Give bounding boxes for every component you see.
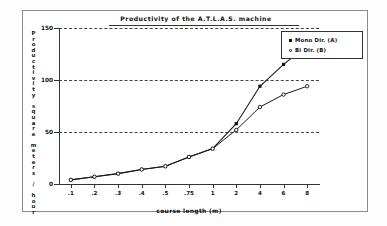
x-tick-label-.75: .75 bbox=[184, 190, 194, 196]
open-circle-icon bbox=[286, 47, 295, 53]
y-tick-label-0: 0 bbox=[49, 181, 53, 187]
x-tick-8 bbox=[307, 184, 308, 188]
x-tick-.4 bbox=[142, 184, 143, 188]
series-line-bi-dir bbox=[71, 86, 307, 180]
series-line-mono-dir bbox=[71, 46, 307, 180]
data-point bbox=[164, 165, 167, 168]
x-tick-label-.4: .4 bbox=[139, 190, 145, 196]
x-tick-1 bbox=[213, 184, 214, 188]
chart-title: Productivity of the A.T.L.A.S. machine bbox=[23, 15, 369, 22]
legend-label-mono-dir: Mono Dir. (A) bbox=[295, 37, 337, 43]
data-point bbox=[211, 147, 214, 150]
x-tick-label-.5: .5 bbox=[162, 190, 168, 196]
chart-legend: Mono Dir. (A) Bi Dir. (B) bbox=[281, 31, 363, 59]
x-tick-label-1: 1 bbox=[211, 190, 215, 196]
y-axis-title: Productivity square meters / hour bbox=[29, 31, 38, 216]
x-axis-title: course length (m) bbox=[59, 207, 319, 214]
y-tick-label-100: 100 bbox=[41, 77, 53, 83]
title-underline bbox=[109, 25, 299, 26]
x-tick-2 bbox=[236, 184, 237, 188]
x-tick-.3 bbox=[118, 184, 119, 188]
x-tick-label-6: 6 bbox=[282, 190, 286, 196]
data-point bbox=[258, 85, 261, 88]
data-point bbox=[258, 105, 261, 108]
x-tick-label-.1: .1 bbox=[68, 190, 74, 196]
plot-area: 050100150 .1.2.3.4.5.7512468 bbox=[59, 28, 319, 184]
data-point bbox=[116, 172, 119, 175]
figure-border: Productivity of the A.T.L.A.S. machine 0… bbox=[22, 10, 368, 212]
y-tick-label-150: 150 bbox=[41, 25, 53, 31]
data-point bbox=[282, 93, 285, 96]
y-tick-0 bbox=[54, 184, 60, 185]
data-point bbox=[140, 168, 143, 171]
x-tick-label-.3: .3 bbox=[115, 190, 121, 196]
x-tick-6 bbox=[284, 184, 285, 188]
data-point bbox=[69, 178, 72, 181]
x-tick-.5 bbox=[165, 184, 166, 188]
x-tick-.1 bbox=[71, 184, 72, 188]
legend-label-bi-dir: Bi Dir. (B) bbox=[295, 47, 326, 53]
x-tick-label-.2: .2 bbox=[91, 190, 97, 196]
data-point bbox=[282, 63, 285, 66]
x-tick-label-4: 4 bbox=[258, 190, 262, 196]
x-tick-label-2: 2 bbox=[234, 190, 238, 196]
data-point bbox=[305, 85, 308, 88]
data-point bbox=[187, 155, 190, 158]
legend-item-bi-dir: Bi Dir. (B) bbox=[286, 45, 358, 55]
data-point bbox=[235, 128, 238, 131]
x-tick-label-8: 8 bbox=[305, 190, 309, 196]
chart-figure: Productivity of the A.T.L.A.S. machine 0… bbox=[23, 11, 369, 213]
data-series-layer bbox=[59, 28, 319, 184]
x-tick-.75 bbox=[189, 184, 190, 188]
x-tick-.2 bbox=[94, 184, 95, 188]
y-axis-title-char: r bbox=[29, 210, 38, 216]
data-point bbox=[235, 122, 238, 125]
filled-square-icon bbox=[286, 37, 295, 43]
figure-canvas: Productivity of the A.T.L.A.S. machine 0… bbox=[0, 0, 387, 226]
x-tick-4 bbox=[260, 184, 261, 188]
y-tick-label-50: 50 bbox=[45, 129, 53, 135]
legend-item-mono-dir: Mono Dir. (A) bbox=[286, 35, 358, 45]
data-point bbox=[93, 175, 96, 178]
